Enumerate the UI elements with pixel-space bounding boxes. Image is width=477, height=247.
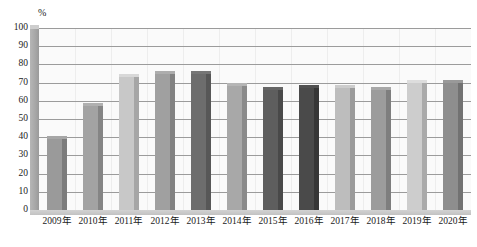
x-tick-label: 2017年 (331, 216, 360, 227)
bar-face (263, 90, 277, 210)
x-tick-label: 2013年 (187, 216, 216, 227)
y-tick-label: 20 (19, 169, 29, 179)
bar (83, 106, 102, 210)
plot-floor (30, 210, 471, 215)
bar-face (299, 88, 313, 210)
bar (119, 77, 138, 210)
x-tick-label: 2014年 (223, 216, 252, 227)
bar-face (227, 86, 241, 210)
bar-side (206, 74, 211, 211)
bar-side (278, 90, 283, 210)
gridline (30, 46, 471, 47)
x-tick-label: 2018年 (367, 216, 396, 227)
x-tick-label: 2009年 (43, 216, 72, 227)
bar-side (422, 83, 427, 210)
y-tick-label: 10 (19, 187, 29, 197)
bar-face (407, 83, 421, 210)
bar (227, 86, 246, 210)
bar-side (350, 88, 355, 210)
gridline (30, 101, 471, 102)
bar-side (314, 88, 319, 210)
bar (443, 83, 462, 210)
y-tick-label: 40 (19, 132, 29, 142)
bar-side (62, 139, 67, 210)
x-tick-label: 2010年 (79, 216, 108, 227)
bar-face (371, 90, 385, 210)
bar-face (119, 77, 133, 210)
x-tick-label: 2011年 (115, 216, 144, 227)
x-axis-tick-labels: 2009年2010年2011年2012年2013年2014年2015年2016年… (30, 216, 471, 240)
bar-chart: % 1009080706050403020100 2009年2010年2011年… (0, 0, 477, 247)
bar-face (155, 74, 169, 211)
y-tick-label: 50 (19, 114, 29, 124)
x-tick-label: 2016年 (295, 216, 324, 227)
y-tick-label: 100 (14, 23, 28, 33)
bar-face (83, 106, 97, 210)
y-axis-tick-labels: 1009080706050403020100 (0, 28, 28, 210)
y-tick-label: 90 (19, 41, 29, 51)
gridline (30, 64, 471, 65)
bar-face (191, 74, 205, 211)
bar (263, 90, 282, 210)
y-tick-label: 70 (19, 78, 29, 88)
plot-area (30, 28, 471, 210)
bar (371, 90, 390, 210)
bar (407, 83, 426, 210)
bar (155, 74, 174, 211)
y-tick-label: 80 (19, 60, 29, 70)
bar-side (458, 83, 463, 210)
bar (191, 74, 210, 211)
bar-side (134, 77, 139, 210)
y-axis-unit-label: % (38, 8, 46, 18)
bar-side (98, 106, 103, 210)
bar-side (386, 90, 391, 210)
bar-face (47, 139, 61, 210)
gridline (30, 28, 471, 29)
y-tick-label: 0 (23, 205, 28, 215)
bar-face (335, 88, 349, 210)
bar-side (242, 86, 247, 210)
x-tick-label: 2012年 (151, 216, 180, 227)
x-tick-label: 2020年 (439, 216, 468, 227)
bar (335, 88, 354, 210)
bar (47, 139, 66, 210)
bar (299, 88, 318, 210)
x-tick-label: 2015年 (259, 216, 288, 227)
y-tick-label: 60 (19, 96, 29, 106)
y-axis-wall (30, 28, 39, 210)
bar-face (443, 83, 457, 210)
y-tick-label: 30 (19, 151, 29, 161)
x-tick-label: 2019年 (403, 216, 432, 227)
gridline (30, 83, 471, 84)
y-axis-wall-top (30, 25, 39, 29)
bar-side (170, 74, 175, 211)
